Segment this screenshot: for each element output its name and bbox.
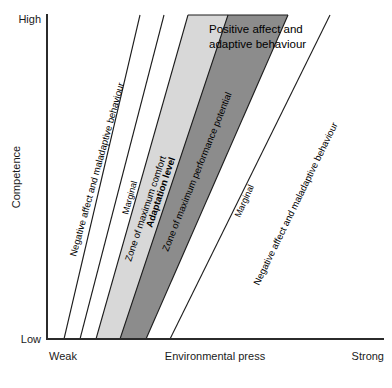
zone-label-negative-right: Negative affect and maladaptive behaviou… [251,120,340,287]
annotation-positive-affect-line1: Positive affect and [209,23,303,35]
environmental-press-diagram: High Low Weak Environmental press Strong… [0,0,392,388]
y-axis-high-label: High [18,13,41,25]
zone-label-marginal-right: Marginal [233,183,256,219]
zone-label-negative-left: Negative affect and maladaptive behaviou… [67,81,126,257]
y-axis-low-label: Low [21,333,41,345]
x-axis-weak-label: Weak [49,350,77,362]
y-axis-title: Competence [10,146,22,208]
annotation-positive-affect-line2: adaptive behaviour [209,38,306,50]
figure-canvas: High Low Weak Environmental press Strong… [0,0,392,388]
x-axis-strong-label: Strong [352,350,384,362]
x-axis-title: Environmental press [165,350,266,362]
caption-fragment [8,376,238,385]
